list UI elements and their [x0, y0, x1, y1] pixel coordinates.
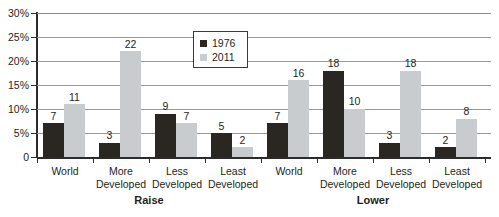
gridline-15 — [37, 85, 491, 86]
bar-lower-less-developed-2011 — [400, 71, 421, 157]
bar-label-lower-least-developed-1976: 2 — [433, 135, 458, 146]
y-axis-label-30: 30% — [8, 8, 29, 18]
bar-lower-less-developed-1976 — [379, 143, 400, 157]
y-axis-label-10: 10% — [8, 104, 29, 114]
category-label-lower-least-developed: Least Developed — [429, 165, 485, 190]
x-axis-tick-0 — [37, 158, 38, 163]
bar-lower-least-developed-1976 — [435, 147, 456, 157]
gridline-25 — [37, 37, 491, 38]
y-axis-label-5: 5% — [14, 128, 29, 138]
x-axis-tick-5 — [317, 158, 318, 163]
bar-raise-world-1976 — [43, 123, 64, 157]
bar-lower-world-1976 — [267, 123, 288, 157]
x-axis-line — [37, 157, 491, 159]
category-label-lower-world: World — [261, 165, 317, 178]
category-label-lower-less-developed: Less Developed — [373, 165, 429, 190]
bar-label-lower-more-developed-2011: 10 — [342, 96, 367, 107]
bar-lower-more-developed-1976 — [323, 71, 344, 157]
bar-raise-less-developed-2011 — [176, 123, 197, 157]
bar-lower-more-developed-2011 — [344, 109, 365, 157]
bar-raise-more-developed-1976 — [99, 143, 120, 157]
category-label-raise-less-developed: Less Developed — [149, 165, 205, 190]
y-axis-labels: 30% 25% 20% 15% 10% 5% 0 — [0, 0, 29, 217]
legend-swatch-icon-1976 — [200, 40, 207, 47]
bar-lower-least-developed-2011 — [456, 119, 477, 157]
group-label-lower: Lower — [261, 194, 485, 206]
bar-label-lower-least-developed-2011: 8 — [454, 106, 479, 117]
x-axis-tick-7 — [429, 158, 430, 163]
legend-swatch-icon-2011 — [200, 54, 207, 61]
x-axis-tick-6 — [373, 158, 374, 163]
bar-lower-world-2011 — [288, 80, 309, 157]
legend-label-1976: 1976 — [212, 38, 235, 49]
bar-label-lower-less-developed-2011: 18 — [398, 58, 423, 69]
legend-label-2011: 2011 — [212, 52, 235, 63]
plot-area: 7 11 3 22 9 7 5 2 7 16 18 10 3 18 — [37, 13, 491, 157]
x-axis-tick-4 — [261, 158, 262, 163]
x-axis-tick-1 — [93, 158, 94, 163]
bar-label-raise-least-developed-2011: 2 — [230, 135, 255, 146]
x-axis-tick-8 — [485, 158, 486, 163]
category-label-raise-more-developed: More Developed — [93, 165, 149, 190]
y-axis-label-20: 20% — [8, 56, 29, 66]
legend-item-1976: 1976 — [200, 36, 247, 50]
bar-label-raise-less-developed-2011: 7 — [174, 111, 199, 122]
bar-label-lower-more-developed-1976: 18 — [321, 58, 346, 69]
y-axis-label-15: 15% — [8, 80, 29, 90]
y-axis-label-0: 0 — [23, 152, 29, 162]
x-axis-tick-3 — [205, 158, 206, 163]
category-label-raise-world: World — [37, 165, 93, 178]
legend-item-2011: 2011 — [200, 50, 247, 64]
category-label-raise-least-developed: Least Developed — [205, 165, 261, 190]
bar-label-raise-world-1976: 7 — [41, 111, 66, 122]
bar-label-lower-world-1976: 7 — [265, 111, 290, 122]
bar-raise-more-developed-2011 — [120, 51, 141, 157]
bar-label-raise-world-2011: 11 — [62, 92, 87, 103]
bar-raise-world-2011 — [64, 104, 85, 157]
category-label-lower-more-developed: More Developed — [317, 165, 373, 190]
bar-label-raise-least-developed-1976: 5 — [209, 121, 234, 132]
bar-raise-less-developed-1976 — [155, 114, 176, 157]
bar-raise-least-developed-1976 — [211, 133, 232, 157]
bar-chart: 30% 25% 20% 15% 10% 5% 0 7 11 3 22 9 — [0, 0, 499, 217]
bar-label-lower-less-developed-1976: 3 — [377, 130, 402, 141]
bar-label-raise-more-developed-2011: 22 — [118, 39, 143, 50]
bar-raise-least-developed-2011 — [232, 147, 253, 157]
group-label-raise: Raise — [37, 194, 261, 206]
gridline-30 — [37, 13, 491, 14]
x-axis-tick-2 — [149, 158, 150, 163]
chart-legend: 1976 2011 — [193, 31, 248, 68]
y-axis-label-25: 25% — [8, 32, 29, 42]
gridline-10 — [37, 109, 491, 110]
bar-label-lower-world-2011: 16 — [286, 68, 311, 79]
bar-label-raise-more-developed-1976: 3 — [97, 130, 122, 141]
